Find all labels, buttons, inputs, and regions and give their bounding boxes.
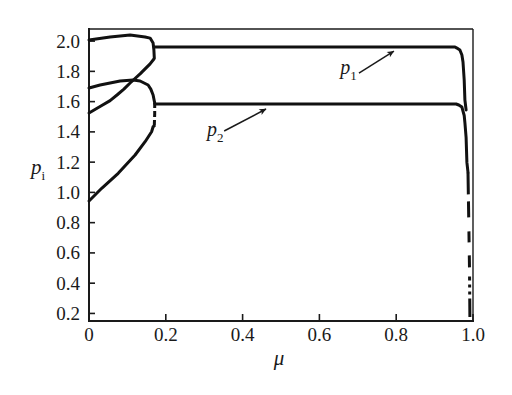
x-axis-label: μ [273,346,285,370]
y-tick-label: 1.4 [56,121,80,142]
y-tick-label: 1.8 [56,61,80,82]
x-tick-label: 0.6 [308,324,332,345]
x-tick-label: 0.4 [231,324,255,345]
y-tick-label: 0.6 [56,242,80,263]
x-tick-label: 0.2 [154,324,178,345]
label-base: p [338,56,350,79]
label-base: p [29,155,42,179]
figure: 0.20.40.60.81.01.21.41.61.82.000.20.40.6… [0,0,512,395]
y-tick-label: 2.0 [56,31,80,52]
y-tick-label: 0.4 [56,273,80,294]
label-subscript: 1 [350,68,357,83]
y-tick-label: 1.2 [56,152,80,173]
label-subscript: i [42,168,46,183]
y-tick-label: 0.2 [56,303,80,324]
x-tick-label: 1.0 [461,324,485,345]
x-tick-label: 0.8 [384,324,408,345]
x-tick-label: 0 [84,324,94,345]
y-tick-label: 1.0 [56,182,80,203]
label-base: p [205,118,217,141]
bifurcation-chart: 0.20.40.60.81.01.21.41.61.82.000.20.40.6… [0,0,512,395]
label-subscript: 2 [217,130,224,145]
y-tick-label: 1.6 [56,91,80,112]
y-tick-label: 0.8 [56,212,80,233]
